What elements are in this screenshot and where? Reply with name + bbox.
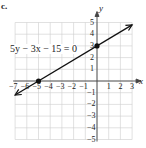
tick-label: −2 (68, 83, 77, 91)
tick-label: 4 (90, 30, 94, 38)
coordinate-plane (0, 0, 146, 148)
tick-label: 1 (107, 83, 111, 91)
tick-label: 3 (90, 42, 94, 50)
y-axis-label: y (99, 4, 103, 13)
tick-label: −4 (87, 124, 96, 132)
tick-label: −3 (87, 112, 96, 120)
tick-label: −2 (87, 100, 96, 108)
equation-label: 5y − 3x − 15 = 0 (10, 44, 77, 54)
problem-marker: c. (1, 2, 7, 11)
tick-label: −5 (87, 136, 96, 144)
tick-label: −5 (33, 83, 42, 91)
tick-label: −1 (87, 89, 96, 97)
tick-label: 1 (90, 65, 94, 73)
tick-label: 3 (130, 83, 134, 91)
tick-label: 2 (90, 54, 94, 62)
tick-label: −4 (44, 83, 53, 91)
tick-label: 2 (118, 83, 122, 91)
tick-label: −6 (21, 83, 30, 91)
tick-label: −7 (9, 83, 18, 91)
x-axis-label: x (139, 77, 143, 86)
tick-label: 5 (90, 19, 94, 27)
tick-label: −3 (56, 83, 65, 91)
